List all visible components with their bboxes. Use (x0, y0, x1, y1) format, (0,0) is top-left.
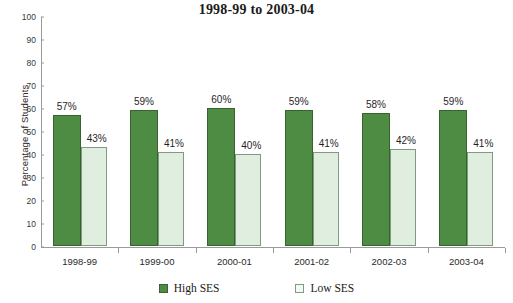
bar-low-ses[interactable] (81, 147, 107, 246)
x-tick-mark (273, 248, 274, 253)
bar-high-ses[interactable] (439, 110, 467, 246)
bar-chart: 1998-99 to 2003-04 Percentage of Student… (0, 0, 513, 303)
bar-value-label: 42% (386, 135, 426, 146)
x-tick-mark (118, 248, 119, 253)
bar-high-ses[interactable] (362, 113, 390, 246)
bar-group: 59%41% (428, 17, 505, 247)
bar-group: 60%40% (196, 17, 273, 247)
x-category-label: 1998-99 (62, 256, 97, 267)
bar-value-label: 43% (77, 133, 117, 144)
bar-value-label: 59% (279, 96, 319, 107)
bar-group: 59%41% (118, 17, 195, 247)
chart-legend: High SESLow SES (0, 282, 513, 294)
bar-value-label: 40% (231, 140, 271, 151)
bar-value-label: 60% (201, 94, 241, 105)
y-tick-label: 30 (27, 173, 36, 183)
bar-high-ses[interactable] (207, 108, 235, 246)
y-tick-label: 80 (27, 58, 36, 68)
x-category-label: 2001-02 (294, 256, 329, 267)
bar-value-label: 41% (463, 138, 503, 149)
legend-swatch-icon (159, 284, 168, 293)
legend-label: High SES (174, 282, 220, 294)
bar-group: 57%43% (41, 17, 118, 247)
legend-label: Low SES (310, 282, 354, 294)
plot-area: 1009080706050403020100 57%43%59%41%60%40… (41, 17, 505, 247)
bar-low-ses[interactable] (390, 149, 416, 246)
y-tick-label: 100 (22, 12, 36, 22)
y-tick-label: 10 (27, 219, 36, 229)
bar-value-label: 59% (124, 96, 164, 107)
bar-low-ses[interactable] (313, 152, 339, 246)
y-tick-label: 70 (27, 81, 36, 91)
bar-value-label: 58% (356, 99, 396, 110)
x-tick-mark (350, 248, 351, 253)
x-tick-mark (428, 248, 429, 253)
x-category-label: 1999-00 (140, 256, 175, 267)
legend-entry-high-ses[interactable]: High SES (159, 282, 220, 294)
x-tick-mark (196, 248, 197, 253)
y-tick-label: 50 (27, 127, 36, 137)
bar-value-label: 41% (154, 138, 194, 149)
y-tick-label: 90 (27, 35, 36, 45)
legend-swatch-icon (295, 284, 304, 293)
x-tick-mark (505, 248, 506, 253)
bar-value-label: 57% (47, 101, 87, 112)
bar-group: 59%41% (273, 17, 350, 247)
legend-entry-low-ses[interactable]: Low SES (295, 282, 354, 294)
x-category-label: 2000-01 (217, 256, 252, 267)
bar-high-ses[interactable] (130, 110, 158, 246)
bar-value-label: 59% (433, 96, 473, 107)
x-category-label: 2002-03 (372, 256, 407, 267)
y-tick-label: 40 (27, 150, 36, 160)
y-tick-label: 60 (27, 104, 36, 114)
x-category-label: 2003-04 (449, 256, 484, 267)
bar-low-ses[interactable] (467, 152, 493, 246)
bar-group: 58%42% (350, 17, 427, 247)
bar-low-ses[interactable] (158, 152, 184, 246)
y-tick-label: 0 (31, 242, 36, 252)
bar-value-label: 41% (309, 138, 349, 149)
bar-high-ses[interactable] (285, 110, 313, 246)
chart-title: 1998-99 to 2003-04 (0, 2, 513, 18)
bar-low-ses[interactable] (235, 154, 261, 246)
y-tick-label: 20 (27, 196, 36, 206)
